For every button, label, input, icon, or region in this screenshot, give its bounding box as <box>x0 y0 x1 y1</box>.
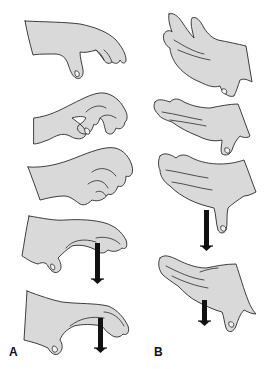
panel-label-b: B <box>154 346 163 358</box>
hand-a3-illustration <box>28 148 133 205</box>
hand-a1-illustration <box>25 21 126 79</box>
hand-a5-illustration <box>24 291 129 355</box>
figure-illustration <box>0 0 266 369</box>
hand-b2-illustration <box>154 99 250 155</box>
arrow-down-icon <box>200 210 213 251</box>
hand-a4-illustration <box>22 216 127 273</box>
hand-b4-illustration <box>159 256 256 332</box>
panel-label-a: A <box>9 346 18 358</box>
hand-positions-figure: A B <box>0 0 266 369</box>
hand-a2-illustration <box>34 93 127 144</box>
hand-b1-illustration <box>163 13 252 96</box>
